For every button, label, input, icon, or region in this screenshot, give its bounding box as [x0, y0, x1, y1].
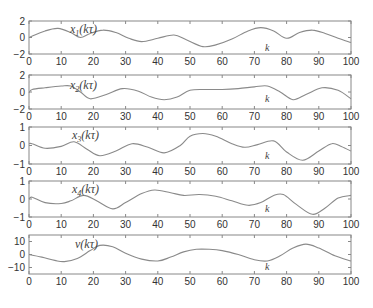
- subplot-3: 0102030405060708090100−101x3(kτ)k: [14, 122, 360, 178]
- x-tick-label: 40: [152, 276, 164, 287]
- x-tick-label: 0: [26, 276, 32, 287]
- x-tick-label: 70: [249, 219, 261, 230]
- x-tick-label: 20: [88, 219, 100, 230]
- y-tick-label: 0: [19, 194, 25, 205]
- series-label: x3(kτ): [71, 128, 99, 144]
- subplot-stack: 0102030405060708090100−202x1(kτ)k0102030…: [8, 16, 360, 288]
- x-tick-label: 30: [120, 111, 132, 122]
- subplot-5: 0102030405060708090100−10010v(kτ)k: [8, 235, 360, 287]
- y-tick-label: −10: [8, 262, 25, 273]
- subplot-1: 0102030405060708090100−202x1(kτ)k: [14, 16, 360, 68]
- x-tick-label: 80: [281, 219, 293, 230]
- x-tick-label: 50: [184, 166, 196, 177]
- x-tick-label: 50: [184, 276, 196, 287]
- x-tick-label: 60: [217, 111, 229, 122]
- x-tick-label: 80: [281, 166, 293, 177]
- x-tick-label: 10: [56, 219, 68, 230]
- x-tick-label: 20: [88, 111, 100, 122]
- y-tick-label: 10: [14, 236, 26, 247]
- x-tick-label: 60: [217, 276, 229, 287]
- y-tick-label: 1: [19, 122, 25, 133]
- x-tick-label: 60: [217, 56, 229, 67]
- x-tick-label: 90: [313, 166, 325, 177]
- x-tick-label: 10: [56, 56, 68, 67]
- x-axis-label: k: [265, 93, 270, 104]
- series-label: v(kτ): [75, 237, 98, 251]
- x-tick-label: 100: [343, 276, 360, 287]
- subplot-4: 0102030405060708090100−101x4(kτ)k: [14, 176, 360, 231]
- x-tick-label: 50: [184, 219, 196, 230]
- x-tick-label: 70: [249, 166, 261, 177]
- x-tick-label: 100: [343, 56, 360, 67]
- x-tick-label: 90: [313, 111, 325, 122]
- y-tick-label: 1: [19, 176, 25, 187]
- x-tick-label: 50: [184, 56, 196, 67]
- y-tick-label: 2: [19, 16, 25, 27]
- x-tick-label: 60: [217, 219, 229, 230]
- subplot-2: 0102030405060708090100−202x2(kτ)k: [14, 70, 360, 123]
- y-tick-label: 0: [19, 140, 25, 151]
- y-tick-label: −1: [14, 212, 26, 223]
- x-tick-label: 30: [120, 166, 132, 177]
- figure: 0102030405060708090100−202x1(kτ)k0102030…: [0, 0, 373, 308]
- x-tick-label: 50: [184, 111, 196, 122]
- x-tick-label: 80: [281, 111, 293, 122]
- x-tick-label: 0: [26, 219, 32, 230]
- series-label: x4(kτ): [71, 182, 99, 198]
- x-tick-label: 20: [88, 166, 100, 177]
- x-axis-label: k: [265, 150, 270, 161]
- y-tick-label: −2: [14, 49, 26, 60]
- x-axis-label: k: [265, 203, 270, 214]
- x-axis-label: k: [265, 261, 270, 272]
- x-tick-label: 70: [249, 56, 261, 67]
- x-axis-label: k: [265, 42, 270, 53]
- series-label: x2(kτ): [69, 78, 97, 94]
- x-tick-label: 10: [56, 276, 68, 287]
- x-tick-label: 100: [343, 111, 360, 122]
- y-tick-label: 0: [19, 249, 25, 260]
- x-tick-label: 0: [26, 111, 32, 122]
- x-tick-label: 40: [152, 219, 164, 230]
- x-tick-label: 80: [281, 276, 293, 287]
- x-tick-label: 90: [313, 276, 325, 287]
- x-tick-label: 40: [152, 111, 164, 122]
- x-tick-label: 40: [152, 166, 164, 177]
- x-tick-label: 100: [343, 166, 360, 177]
- x-tick-label: 20: [88, 56, 100, 67]
- x-tick-label: 100: [343, 219, 360, 230]
- x-tick-label: 70: [249, 276, 261, 287]
- x-tick-label: 0: [26, 166, 32, 177]
- x-tick-label: 90: [313, 56, 325, 67]
- x-tick-label: 30: [120, 276, 132, 287]
- x-tick-label: 30: [120, 219, 132, 230]
- x-tick-label: 30: [120, 56, 132, 67]
- y-tick-label: 0: [19, 87, 25, 98]
- x-tick-label: 20: [88, 276, 100, 287]
- x-tick-label: 10: [56, 111, 68, 122]
- y-tick-label: 0: [19, 32, 25, 43]
- y-tick-label: −2: [14, 104, 26, 115]
- y-tick-label: −1: [14, 159, 26, 170]
- y-tick-label: 2: [19, 70, 25, 81]
- x-tick-label: 40: [152, 56, 164, 67]
- series-label: x1(kτ): [69, 22, 97, 38]
- x-tick-label: 0: [26, 56, 32, 67]
- x-tick-label: 70: [249, 111, 261, 122]
- x-tick-label: 10: [56, 166, 68, 177]
- x-tick-label: 80: [281, 56, 293, 67]
- x-tick-label: 60: [217, 166, 229, 177]
- x-tick-label: 90: [313, 219, 325, 230]
